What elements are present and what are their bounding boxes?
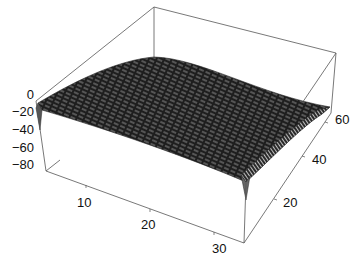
x-tick-label: 10 (77, 196, 91, 209)
x-tick-label: 20 (141, 218, 155, 231)
z-tick-label: −60 (0, 141, 34, 154)
z-tick-label: −40 (0, 123, 34, 136)
surface-mesh (38, 57, 330, 182)
y-tick-label: 20 (283, 196, 297, 209)
z-tick-label: 0 (0, 88, 34, 101)
surface-plot (0, 0, 355, 258)
y-tick-label: 60 (335, 113, 349, 126)
z-tick-label: −80 (0, 158, 34, 171)
y-tick-label: 40 (312, 153, 326, 166)
z-tick-label: −20 (0, 105, 34, 118)
x-tick-label: 30 (212, 242, 226, 255)
